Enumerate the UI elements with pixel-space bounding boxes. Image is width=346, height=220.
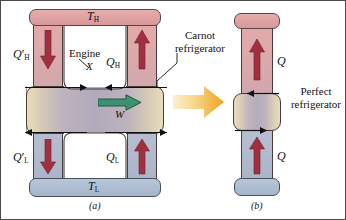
arrow-q-top-b xyxy=(249,39,265,81)
thermodynamics-figure: TH TL xyxy=(0,0,346,220)
engine-leader-line xyxy=(75,58,91,70)
q-cold-label: QL xyxy=(106,151,119,164)
arrow-q-hot-prime xyxy=(40,30,56,70)
connector-b-bottom xyxy=(235,126,279,136)
q-cold-prime-label: Q′L xyxy=(13,151,29,164)
panel-caption-b: (b) xyxy=(251,201,263,212)
connector-cold-out xyxy=(25,128,167,138)
cold-reservoir-b xyxy=(234,178,280,196)
cold-reservoir-label-a: TL xyxy=(88,180,99,193)
q-hot-label: QH xyxy=(106,56,120,69)
q-bottom-label-b: Q xyxy=(277,150,286,163)
hot-reservoir-label-a: TH xyxy=(87,10,99,23)
panel-caption-a: (a) xyxy=(89,201,101,212)
perfect-refrigerator-label: Perfect refrigerator xyxy=(286,85,346,110)
connector-hot-in xyxy=(25,83,167,93)
connector-b-top xyxy=(235,89,279,99)
work-label: W xyxy=(115,109,124,121)
q-top-label-b: Q xyxy=(277,55,286,68)
q-hot-prime-label: Q′H xyxy=(13,48,30,61)
band-fillets-a xyxy=(26,86,164,134)
hot-reservoir-b xyxy=(234,13,280,29)
arrow-q-bottom-b xyxy=(249,137,265,175)
arrow-q-hot xyxy=(134,30,150,70)
carnot-refrigerator-label: Carnot refrigerator xyxy=(164,29,236,54)
arrow-q-cold-prime xyxy=(40,139,56,175)
arrow-q-cold xyxy=(134,139,150,175)
equivalence-arrow xyxy=(173,84,225,120)
